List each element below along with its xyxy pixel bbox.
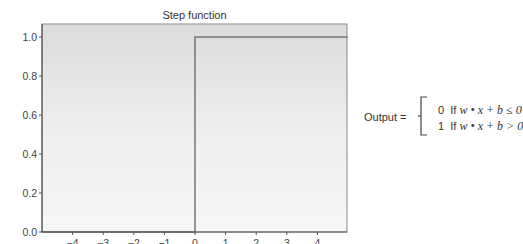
x-tick-label: 3 <box>284 237 290 244</box>
x-tick-label: 1 <box>223 237 229 244</box>
case-row-0: 0 If w • x + b ≤ 0 <box>438 103 522 118</box>
x-tick-label: 2 <box>253 237 259 244</box>
x-tick-label: −3 <box>97 237 109 244</box>
y-tick-label: 0.6 <box>22 109 37 121</box>
case-condition: w • x + b ≤ 0 <box>459 103 521 117</box>
case-if: If <box>450 104 456 116</box>
y-tick-label: 0.2 <box>22 187 37 199</box>
case-condition: w • x + b > 0 <box>459 119 523 133</box>
x-tick-label: 4 <box>314 237 320 244</box>
y-tick-label: 1.0 <box>22 31 37 43</box>
x-tick-label: −2 <box>128 237 140 244</box>
x-axis: −4−3−2−101234 <box>42 232 347 244</box>
y-tick-label: 0.0 <box>22 226 37 238</box>
y-axis: 0.00.20.40.60.81.0 <box>22 24 42 238</box>
case-row-1: 1 If w • x + b > 0 <box>438 119 523 134</box>
case-value: 0 <box>438 104 444 116</box>
y-tick-label: 0.8 <box>22 70 37 82</box>
case-value: 1 <box>438 120 444 132</box>
x-tick-label: 0 <box>192 237 198 244</box>
x-tick-label: −1 <box>158 237 170 244</box>
brace-icon <box>418 96 428 136</box>
case-if: If <box>450 120 456 132</box>
x-tick-label: −4 <box>67 237 79 244</box>
y-tick-label: 0.4 <box>22 148 37 160</box>
output-label: Output = <box>364 111 407 123</box>
